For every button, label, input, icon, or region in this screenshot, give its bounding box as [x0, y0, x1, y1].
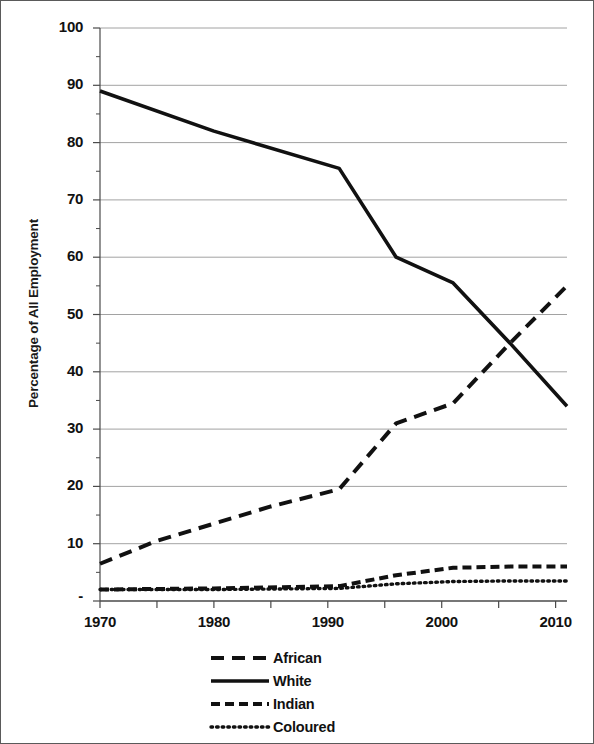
legend-item-african[interactable]: African [209, 646, 419, 669]
y-tick-label: 50 [39, 305, 83, 322]
chart-plot-area [1, 1, 594, 744]
y-tick-label: 80 [39, 133, 83, 150]
y-tick-label: - [39, 587, 83, 604]
y-tick-label: 100 [39, 18, 83, 35]
y-tick-label: 40 [39, 362, 83, 379]
x-tick-label: 2010 [526, 613, 586, 630]
x-tick-label: 1970 [70, 613, 130, 630]
series-line-white [100, 91, 567, 406]
legend-swatch-icon [209, 651, 271, 665]
legend-item-white[interactable]: White [209, 669, 419, 692]
legend-swatch-icon [209, 674, 271, 688]
legend-item-indian[interactable]: Indian [209, 692, 419, 715]
legend-label: Indian [273, 696, 315, 712]
y-tick-label: 10 [39, 534, 83, 551]
y-tick-label: 20 [39, 476, 83, 493]
x-tick-label: 1980 [184, 613, 244, 630]
y-tick-label: 70 [39, 190, 83, 207]
series-lines [100, 91, 567, 590]
legend-label: White [273, 673, 311, 689]
y-tick-label: 90 [39, 75, 83, 92]
legend-swatch-icon [209, 697, 271, 711]
x-tick-label: 1990 [298, 613, 358, 630]
chart-figure: Percentage of All Employment 10090807060… [0, 0, 594, 744]
y-tick-label: 60 [39, 247, 83, 264]
legend-label: Coloured [273, 719, 335, 735]
legend-item-coloured[interactable]: Coloured [209, 715, 419, 738]
chart-legend: AfricanWhiteIndianColoured [209, 646, 419, 738]
x-tick-label: 2000 [412, 613, 472, 630]
legend-swatch-icon [209, 720, 271, 734]
y-tick-label: 30 [39, 419, 83, 436]
series-line-indian [100, 567, 567, 590]
legend-label: African [273, 650, 322, 666]
